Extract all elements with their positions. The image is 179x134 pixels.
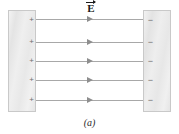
capacitor-field-diagram: + + + + + − − − − − E (a) [0, 0, 179, 134]
plus-charge-sign: + [27, 57, 36, 66]
minus-charge-sign: − [146, 96, 155, 105]
field-arrow-icon [87, 39, 93, 45]
minus-charge-sign: − [146, 38, 155, 47]
field-arrow-icon [87, 77, 93, 83]
minus-charge-sign: − [146, 16, 155, 25]
minus-charge-sign: − [146, 57, 155, 66]
field-arrow-icon [87, 97, 93, 103]
field-label: E [80, 0, 102, 14]
plus-charge-sign: + [27, 16, 36, 25]
field-arrow-icon [87, 58, 93, 64]
plus-charge-sign: + [27, 76, 36, 85]
vector-arrow-icon [86, 0, 96, 4]
figure-caption: (a) [0, 117, 179, 129]
field-label-text: E [80, 3, 102, 14]
plus-charge-sign: + [27, 96, 36, 105]
plus-charge-sign: + [27, 38, 36, 47]
minus-charge-sign: − [146, 76, 155, 85]
field-arrow-icon [87, 16, 93, 22]
